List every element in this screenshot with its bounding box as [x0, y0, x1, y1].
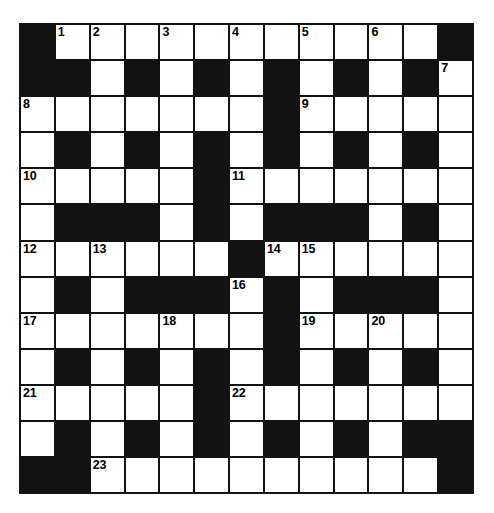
letter-square[interactable]: [90, 277, 125, 313]
letter-square[interactable]: [20, 277, 55, 313]
letter-square[interactable]: [159, 421, 194, 457]
letter-square[interactable]: [264, 385, 299, 421]
letter-square[interactable]: 21: [20, 385, 55, 421]
letter-square[interactable]: [368, 168, 403, 204]
letter-square[interactable]: [368, 204, 403, 240]
letter-square[interactable]: [368, 132, 403, 168]
letter-square[interactable]: [334, 241, 369, 277]
letter-square[interactable]: [438, 96, 473, 132]
letter-square[interactable]: [159, 132, 194, 168]
letter-square[interactable]: [194, 313, 229, 349]
letter-square[interactable]: [194, 96, 229, 132]
letter-square[interactable]: [125, 96, 160, 132]
letter-square[interactable]: [55, 96, 90, 132]
letter-square[interactable]: [334, 168, 369, 204]
letter-square[interactable]: [438, 277, 473, 313]
letter-square[interactable]: 20: [368, 313, 403, 349]
letter-square[interactable]: [229, 96, 264, 132]
letter-square[interactable]: [299, 457, 334, 493]
letter-square[interactable]: [159, 457, 194, 493]
letter-square[interactable]: [229, 421, 264, 457]
letter-square[interactable]: 2: [90, 24, 125, 60]
letter-square[interactable]: [159, 96, 194, 132]
letter-square[interactable]: 15: [299, 241, 334, 277]
letter-square[interactable]: 13: [90, 241, 125, 277]
letter-square[interactable]: [438, 313, 473, 349]
letter-square[interactable]: [125, 385, 160, 421]
letter-square[interactable]: 4: [229, 24, 264, 60]
letter-square[interactable]: [299, 60, 334, 96]
letter-square[interactable]: [159, 349, 194, 385]
letter-square[interactable]: [125, 313, 160, 349]
letter-square[interactable]: [299, 168, 334, 204]
letter-square[interactable]: [90, 313, 125, 349]
letter-square[interactable]: [194, 24, 229, 60]
letter-square[interactable]: [229, 132, 264, 168]
letter-square[interactable]: [159, 168, 194, 204]
letter-square[interactable]: [229, 313, 264, 349]
letter-square[interactable]: [90, 385, 125, 421]
letter-square[interactable]: [55, 313, 90, 349]
letter-square[interactable]: [368, 349, 403, 385]
letter-square[interactable]: [229, 349, 264, 385]
letter-square[interactable]: [20, 132, 55, 168]
letter-square[interactable]: [159, 241, 194, 277]
letter-square[interactable]: 6: [368, 24, 403, 60]
letter-square[interactable]: 23: [90, 457, 125, 493]
letter-square[interactable]: [299, 277, 334, 313]
letter-square[interactable]: [20, 421, 55, 457]
letter-square[interactable]: 19: [299, 313, 334, 349]
letter-square[interactable]: [368, 457, 403, 493]
letter-square[interactable]: 14: [264, 241, 299, 277]
letter-square[interactable]: [403, 457, 438, 493]
letter-square[interactable]: [403, 241, 438, 277]
letter-square[interactable]: [368, 60, 403, 96]
letter-square[interactable]: [90, 132, 125, 168]
letter-square[interactable]: [403, 313, 438, 349]
letter-square[interactable]: [334, 96, 369, 132]
letter-square[interactable]: [125, 24, 160, 60]
letter-square[interactable]: [264, 168, 299, 204]
letter-square[interactable]: [229, 457, 264, 493]
letter-square[interactable]: [368, 421, 403, 457]
letter-square[interactable]: 3: [159, 24, 194, 60]
letter-square[interactable]: [125, 168, 160, 204]
letter-square[interactable]: [403, 96, 438, 132]
letter-square[interactable]: 5: [299, 24, 334, 60]
letter-square[interactable]: [55, 168, 90, 204]
letter-square[interactable]: [403, 385, 438, 421]
letter-square[interactable]: [334, 385, 369, 421]
letter-square[interactable]: 10: [20, 168, 55, 204]
letter-square[interactable]: 18: [159, 313, 194, 349]
letter-square[interactable]: [438, 385, 473, 421]
letter-square[interactable]: [438, 349, 473, 385]
letter-square[interactable]: [229, 60, 264, 96]
letter-square[interactable]: 16: [229, 277, 264, 313]
letter-square[interactable]: [438, 241, 473, 277]
letter-square[interactable]: [90, 168, 125, 204]
letter-square[interactable]: 12: [20, 241, 55, 277]
letter-square[interactable]: [368, 385, 403, 421]
letter-square[interactable]: [264, 24, 299, 60]
letter-square[interactable]: [159, 60, 194, 96]
letter-square[interactable]: [194, 241, 229, 277]
letter-square[interactable]: [125, 457, 160, 493]
letter-square[interactable]: 8: [20, 96, 55, 132]
letter-square[interactable]: [90, 96, 125, 132]
letter-square[interactable]: [299, 385, 334, 421]
letter-square[interactable]: [299, 349, 334, 385]
letter-square[interactable]: [90, 421, 125, 457]
letter-square[interactable]: [55, 241, 90, 277]
letter-square[interactable]: 22: [229, 385, 264, 421]
letter-square[interactable]: [334, 24, 369, 60]
letter-square[interactable]: 9: [299, 96, 334, 132]
letter-square[interactable]: [264, 457, 299, 493]
letter-square[interactable]: 11: [229, 168, 264, 204]
letter-square[interactable]: [90, 60, 125, 96]
letter-square[interactable]: [159, 204, 194, 240]
letter-square[interactable]: [125, 241, 160, 277]
letter-square[interactable]: [334, 313, 369, 349]
letter-square[interactable]: [20, 349, 55, 385]
letter-square[interactable]: [403, 24, 438, 60]
letter-square[interactable]: 1: [55, 24, 90, 60]
